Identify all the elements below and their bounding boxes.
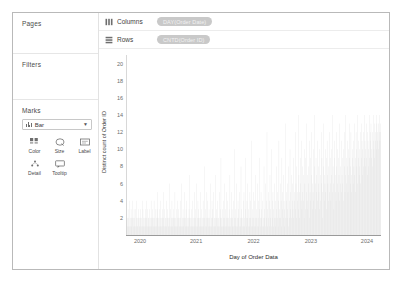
marks-label-button[interactable]: Label — [72, 137, 97, 154]
x-tick-label: 2020 — [134, 238, 146, 244]
mark-type-value: Bar — [35, 122, 83, 128]
marks-card: Marks Bar ▼ Color — [13, 100, 98, 269]
y-axis-title-text: Distinct count of Order ID — [101, 111, 107, 173]
bar-chart-icon — [26, 122, 32, 127]
columns-pill[interactable]: DAY(Order Date) — [157, 17, 212, 26]
columns-grid-icon — [105, 18, 113, 26]
filters-label: Filters — [22, 61, 98, 68]
label-icon — [79, 137, 91, 147]
chart-canvas[interactable]: Distinct count of Order ID 2018161412108… — [99, 49, 389, 269]
marks-tooltip-button[interactable]: Tooltip — [47, 159, 72, 176]
x-tick-label: 2024 — [361, 238, 373, 244]
y-tick-label: 12 — [117, 129, 123, 135]
tableau-worksheet-window: Pages Filters Marks Bar ▼ — [12, 12, 390, 270]
y-tick-label: 18 — [117, 78, 123, 84]
columns-label: Columns — [117, 18, 153, 25]
pages-shelf[interactable]: Pages — [13, 13, 98, 54]
x-tick-label: 2021 — [190, 238, 202, 244]
size-icon — [54, 137, 66, 147]
marks-size-button[interactable]: Size — [47, 137, 72, 154]
columns-shelf[interactable]: Columns DAY(Order Date) — [99, 13, 389, 31]
y-tick-label: 6 — [120, 181, 123, 187]
rows-pill[interactable]: CNTD(Order ID) — [157, 35, 210, 44]
y-tick-label: 16 — [117, 95, 123, 101]
y-axis-ticks: 2018161412108642 — [110, 55, 125, 235]
y-tick-label: 8 — [120, 163, 123, 169]
bar-series — [127, 55, 381, 235]
marks-size-label: Size — [55, 148, 65, 154]
worksheet-area: Columns DAY(Order Date) Rows CNTD(Order … — [99, 13, 389, 269]
marks-color-label: Color — [29, 148, 41, 154]
y-tick-label: 10 — [117, 146, 123, 152]
y-tick-label: 4 — [120, 198, 123, 204]
y-tick-label: 14 — [117, 112, 123, 118]
rows-label: Rows — [117, 36, 153, 43]
rows-grid-icon — [105, 36, 113, 44]
x-axis-ticks: 20202021202220232024 — [126, 238, 381, 248]
marks-label-label: Label — [78, 148, 90, 154]
marks-detail-button[interactable]: Detail — [22, 159, 47, 176]
filters-shelf[interactable]: Filters — [13, 54, 98, 100]
marks-color-button[interactable]: Color — [22, 137, 47, 154]
x-tick-label: 2022 — [247, 238, 259, 244]
pages-label: Pages — [22, 20, 98, 27]
mark-property-buttons: Color Size — [22, 137, 98, 181]
y-tick-label: 2 — [120, 215, 123, 221]
y-tick-label: 20 — [117, 61, 123, 67]
detail-icon — [29, 159, 41, 169]
chevron-down-icon: ▼ — [83, 122, 88, 127]
plot-area[interactable] — [126, 55, 381, 235]
marks-tooltip-label: Tooltip — [52, 170, 66, 176]
tooltip-icon — [54, 159, 66, 169]
x-tick-label: 2023 — [305, 238, 317, 244]
marks-label: Marks — [22, 107, 98, 114]
x-axis-title: Day of Order Data — [126, 254, 381, 260]
rows-shelf[interactable]: Rows CNTD(Order ID) — [99, 31, 389, 49]
marks-detail-label: Detail — [28, 170, 41, 176]
y-axis-title: Distinct count of Order ID — [98, 49, 110, 235]
color-icon — [29, 137, 41, 147]
mark-type-dropdown[interactable]: Bar ▼ — [22, 119, 92, 130]
x-axis-line — [126, 235, 381, 236]
marks-side-panel: Pages Filters Marks Bar ▼ — [13, 13, 99, 269]
